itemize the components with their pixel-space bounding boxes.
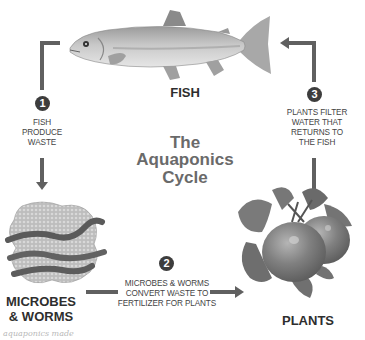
watermark-text: aquaponics made xyxy=(3,329,74,338)
tomato-plant-icon xyxy=(232,182,362,302)
microbes-worms-label: MICROBES & WORMS xyxy=(0,294,82,324)
step-1-badge: 1 xyxy=(35,96,50,111)
step-2-badge: 2 xyxy=(159,256,174,271)
step-3-badge: 3 xyxy=(307,87,322,102)
plants-illustration xyxy=(232,182,362,302)
fish-label: FISH xyxy=(155,85,215,100)
fish-illustration xyxy=(68,4,278,84)
fish-icon xyxy=(68,4,278,84)
step-2-text: MICROBES & WORMS CONVERT WASTE TO FERTIL… xyxy=(117,279,217,309)
step-1-text: FISH PRODUCE WASTE xyxy=(12,118,72,148)
arrow-3-top-segment xyxy=(288,41,316,45)
title-line-3: Cycle xyxy=(120,168,250,188)
arrow-2-left-shaft xyxy=(86,290,118,294)
arrow-3-vertical-segment xyxy=(312,41,316,82)
microbes-worms-illustration xyxy=(2,200,112,290)
plants-label: PLANTS xyxy=(268,313,348,328)
arrow-3-head-icon xyxy=(280,37,289,49)
arrow-1-head-icon xyxy=(36,182,48,190)
arrow-1-vertical-segment xyxy=(40,41,44,90)
arrow-1-lower-shaft xyxy=(40,158,44,184)
worms-icon xyxy=(2,200,112,290)
step-3-text: PLANTS FILTER WATER THAT RETURNS TO THE … xyxy=(272,108,362,148)
title-line-2: Aquaponics xyxy=(120,150,250,170)
